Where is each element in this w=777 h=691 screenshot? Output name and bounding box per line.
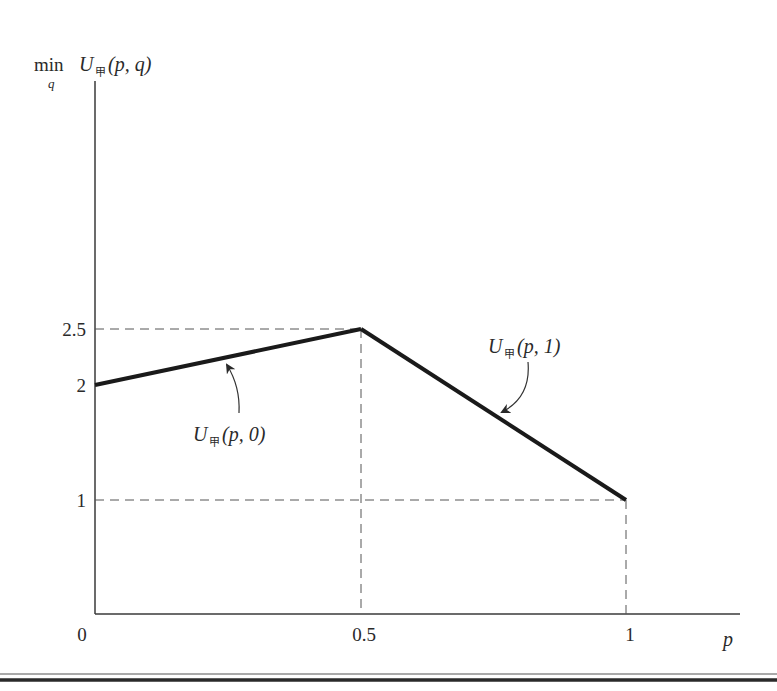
annotation-1-func: U [488,335,504,357]
annotation-0-subscript: 甲 [209,436,220,449]
annotation-arrow-icon [502,362,528,412]
annotation-u-p-1: U 甲 (p, 1) [488,335,561,412]
annotation-1-args: (p, 1) [517,335,561,358]
x-tick-0: 0 [77,624,87,645]
y-tick-2.5: 2.5 [62,319,86,340]
x-tick-0.5: 0.5 [352,624,376,645]
series-u-p-0 [95,329,361,385]
y-tick-2: 2 [77,375,87,396]
y-tick-labels: 2.5 2 1 [62,319,86,511]
y-label-func-subscript: 甲 [95,66,106,79]
annotation-1-subscript: 甲 [504,348,515,361]
chart-canvas: min q U 甲 (p, q) 2.5 2 1 0 0.5 1 p U 甲 (… [0,0,777,691]
reference-lines [95,329,626,614]
x-tick-labels: 0 0.5 1 [77,624,635,645]
x-axis-label: p [721,628,733,651]
y-label-min-subscript: q [48,76,55,91]
y-label-func: U [79,53,95,75]
annotation-u-p-0: U 甲 (p, 0) [193,365,266,449]
y-label-args: (p, q) [108,53,152,76]
x-tick-1: 1 [625,624,635,645]
annotation-arrow-icon [227,365,239,413]
y-label-min: min [34,54,64,75]
y-tick-1: 1 [77,490,87,511]
y-axis-label: min q U 甲 (p, q) [34,53,152,91]
annotation-0-func: U [193,423,209,445]
annotation-0-args: (p, 0) [222,423,266,446]
